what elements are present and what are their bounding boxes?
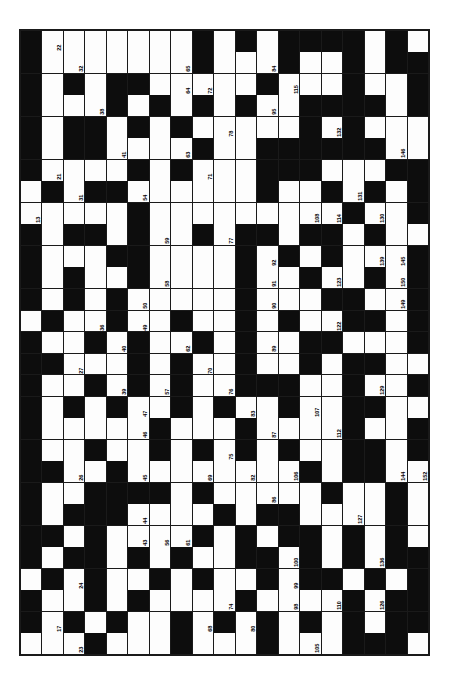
- grid-open-square[interactable]: [107, 526, 128, 547]
- grid-open-square[interactable]: [150, 504, 171, 525]
- grid-open-square[interactable]: [343, 224, 364, 245]
- grid-open-square[interactable]: [150, 31, 171, 52]
- grid-open-square[interactable]: [150, 289, 171, 310]
- grid-open-square[interactable]: [322, 52, 343, 73]
- grid-open-square[interactable]: [408, 138, 429, 159]
- grid-open-square[interactable]: [42, 74, 63, 95]
- grid-open-square[interactable]: [300, 181, 321, 202]
- grid-open-square[interactable]: [214, 160, 235, 181]
- grid-open-square[interactable]: [365, 289, 386, 310]
- grid-open-square[interactable]: 62: [171, 332, 192, 353]
- grid-open-square[interactable]: [279, 418, 300, 439]
- grid-open-square[interactable]: [85, 246, 106, 267]
- grid-open-square[interactable]: [257, 311, 278, 332]
- grid-open-square[interactable]: 98: [279, 590, 300, 611]
- grid-open-square[interactable]: [236, 569, 257, 590]
- grid-open-square[interactable]: [42, 375, 63, 396]
- grid-open-square[interactable]: [42, 117, 63, 138]
- grid-open-square[interactable]: [343, 483, 364, 504]
- grid-open-square[interactable]: [193, 375, 214, 396]
- grid-open-square[interactable]: [236, 117, 257, 138]
- grid-open-square[interactable]: 136: [365, 547, 386, 568]
- grid-open-square[interactable]: [193, 397, 214, 418]
- grid-open-square[interactable]: [408, 117, 429, 138]
- grid-open-square[interactable]: [257, 203, 278, 224]
- grid-open-square[interactable]: [214, 547, 235, 568]
- grid-open-square[interactable]: [171, 95, 192, 116]
- grid-open-square[interactable]: [42, 138, 63, 159]
- grid-open-square[interactable]: [365, 418, 386, 439]
- grid-open-square[interactable]: [42, 203, 63, 224]
- grid-open-square[interactable]: [193, 504, 214, 525]
- grid-open-square[interactable]: [171, 461, 192, 482]
- grid-open-square[interactable]: [279, 95, 300, 116]
- grid-open-square[interactable]: [171, 483, 192, 504]
- grid-open-square[interactable]: [365, 31, 386, 52]
- grid-open-square[interactable]: [408, 526, 429, 547]
- grid-open-square[interactable]: [42, 397, 63, 418]
- grid-open-square[interactable]: [128, 569, 149, 590]
- grid-open-square[interactable]: [42, 547, 63, 568]
- grid-open-square[interactable]: [21, 569, 42, 590]
- grid-open-square[interactable]: 152: [408, 461, 429, 482]
- grid-open-square[interactable]: [322, 547, 343, 568]
- grid-open-square[interactable]: [150, 246, 171, 267]
- grid-open-square[interactable]: [193, 633, 214, 654]
- grid-open-square[interactable]: [279, 289, 300, 310]
- grid-open-square[interactable]: [107, 267, 128, 288]
- grid-open-square[interactable]: [42, 95, 63, 116]
- grid-open-square[interactable]: [300, 483, 321, 504]
- grid-open-square[interactable]: [365, 483, 386, 504]
- grid-open-square[interactable]: [214, 74, 235, 95]
- grid-open-square[interactable]: 44: [128, 504, 149, 525]
- grid-open-square[interactable]: 145: [386, 246, 407, 267]
- grid-open-square[interactable]: 61: [171, 526, 192, 547]
- grid-open-square[interactable]: 89: [257, 332, 278, 353]
- grid-open-square[interactable]: 71: [193, 160, 214, 181]
- grid-open-square[interactable]: [42, 52, 63, 73]
- grid-open-square[interactable]: [257, 526, 278, 547]
- grid-open-square[interactable]: [171, 289, 192, 310]
- grid-open-square[interactable]: [386, 375, 407, 396]
- grid-open-square[interactable]: [386, 74, 407, 95]
- grid-open-square[interactable]: [150, 117, 171, 138]
- grid-open-square[interactable]: [214, 311, 235, 332]
- grid-open-square[interactable]: [21, 311, 42, 332]
- grid-open-square[interactable]: [107, 633, 128, 654]
- grid-open-square[interactable]: [85, 289, 106, 310]
- grid-open-square[interactable]: 77: [214, 224, 235, 245]
- grid-open-square[interactable]: [193, 181, 214, 202]
- grid-open-square[interactable]: [300, 418, 321, 439]
- grid-open-square[interactable]: [42, 633, 63, 654]
- grid-open-square[interactable]: [257, 31, 278, 52]
- grid-open-square[interactable]: 70: [193, 354, 214, 375]
- grid-open-square[interactable]: [214, 246, 235, 267]
- grid-open-square[interactable]: 26: [64, 461, 85, 482]
- grid-open-square[interactable]: [365, 504, 386, 525]
- grid-open-square[interactable]: 99: [279, 569, 300, 590]
- grid-open-square[interactable]: [300, 311, 321, 332]
- grid-open-square[interactable]: [150, 138, 171, 159]
- grid-open-square[interactable]: [279, 633, 300, 654]
- grid-open-square[interactable]: 56: [150, 526, 171, 547]
- grid-open-square[interactable]: [64, 203, 85, 224]
- grid-open-square[interactable]: [107, 547, 128, 568]
- grid-open-square[interactable]: [128, 633, 149, 654]
- grid-open-square[interactable]: [64, 526, 85, 547]
- grid-open-square[interactable]: [150, 590, 171, 611]
- grid-open-square[interactable]: 130: [365, 203, 386, 224]
- grid-open-square[interactable]: [171, 203, 192, 224]
- grid-open-square[interactable]: [193, 311, 214, 332]
- grid-open-square[interactable]: [365, 117, 386, 138]
- grid-open-square[interactable]: [386, 569, 407, 590]
- grid-open-square[interactable]: [42, 332, 63, 353]
- grid-open-square[interactable]: 107: [300, 397, 321, 418]
- grid-open-square[interactable]: [171, 31, 192, 52]
- grid-open-square[interactable]: [300, 289, 321, 310]
- grid-open-square[interactable]: [85, 612, 106, 633]
- grid-open-square[interactable]: [408, 397, 429, 418]
- grid-open-square[interactable]: [85, 160, 106, 181]
- grid-open-square[interactable]: [322, 504, 343, 525]
- grid-open-square[interactable]: [300, 440, 321, 461]
- grid-open-square[interactable]: 22: [42, 31, 63, 52]
